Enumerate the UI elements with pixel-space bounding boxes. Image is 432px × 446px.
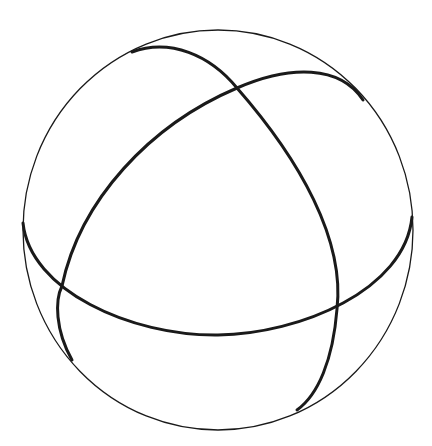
great-circle-equator xyxy=(23,217,412,335)
sphere-diagram xyxy=(0,0,432,446)
great-circle-descending xyxy=(132,47,338,410)
great-circle-ascending xyxy=(58,72,363,360)
